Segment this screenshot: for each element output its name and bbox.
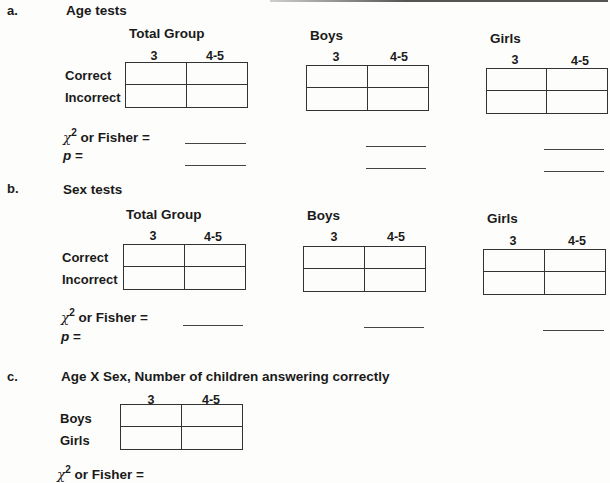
section-c-letter: c. — [7, 369, 18, 384]
b-girls-cell[interactable] — [484, 250, 545, 272]
b-boys-cell[interactable] — [365, 247, 426, 269]
b-boys-title: Boys — [307, 208, 340, 223]
a-chi-fisher-label: χ2 or Fisher = — [63, 127, 150, 145]
a-total-table — [125, 62, 248, 108]
top-rule — [270, 0, 608, 2]
a-girls-p-blank[interactable] — [544, 171, 604, 172]
a-boys-table — [306, 65, 429, 111]
b-total-cell[interactable] — [124, 267, 185, 289]
a-boys-cell[interactable] — [368, 88, 429, 110]
b-total-col-4-5: 4-5 — [198, 230, 228, 244]
a-girls-col-4-5: 4-5 — [565, 54, 595, 68]
b-p-label: p = — [61, 329, 81, 344]
a-total-col-4-5: 4-5 — [200, 49, 230, 63]
b-boys-cell[interactable] — [365, 269, 426, 291]
a-boys-cell[interactable] — [368, 66, 429, 88]
a-total-row-correct: Correct — [65, 68, 111, 83]
b-boys-col-4-5: 4-5 — [381, 230, 411, 244]
c-cell[interactable] — [182, 405, 243, 427]
b-total-cell[interactable] — [124, 245, 185, 267]
a-total-chi-blank[interactable] — [185, 143, 246, 144]
a-boys-cell[interactable] — [307, 66, 368, 88]
b-total-row-correct: Correct — [62, 250, 108, 265]
a-total-cell[interactable] — [126, 85, 187, 107]
c-cell[interactable] — [182, 427, 243, 449]
c-row-girls: Girls — [60, 433, 90, 448]
a-total-cell[interactable] — [126, 63, 187, 85]
b-total-chi-blank[interactable] — [183, 325, 243, 326]
b-girls-cell[interactable] — [484, 272, 545, 294]
a-girls-col-3: 3 — [509, 53, 521, 67]
b-girls-col-4-5: 4-5 — [562, 234, 592, 248]
b-boys-cell[interactable] — [304, 269, 365, 291]
a-total-cell[interactable] — [187, 85, 248, 107]
a-total-cell[interactable] — [187, 63, 248, 85]
a-boys-cell[interactable] — [307, 88, 368, 110]
b-girls-col-3: 3 — [507, 234, 519, 248]
a-girls-chi-blank[interactable] — [544, 149, 604, 150]
c-table — [120, 404, 243, 450]
a-girls-cell[interactable] — [487, 69, 547, 91]
section-b-letter: b. — [7, 181, 19, 196]
a-boys-title: Boys — [310, 28, 343, 43]
a-total-p-blank[interactable] — [185, 165, 246, 166]
c-cell[interactable] — [121, 427, 182, 449]
b-girls-title: Girls — [487, 211, 518, 226]
c-row-boys: Boys — [60, 411, 92, 426]
b-boys-table — [303, 246, 426, 292]
b-boys-col-3: 3 — [328, 230, 340, 244]
b-total-table — [123, 244, 246, 290]
b-chi-fisher-label: χ2 or Fisher = — [61, 307, 148, 325]
b-total-group-title: Total Group — [126, 207, 202, 222]
a-p-label: p = — [63, 148, 83, 163]
section-a-title: Age tests — [66, 3, 127, 18]
a-total-row-incorrect: Incorrect — [65, 90, 121, 105]
section-c-title: Age X Sex, Number of children answering … — [61, 369, 390, 384]
a-total-col-3: 3 — [148, 49, 160, 63]
a-boys-p-blank[interactable] — [366, 168, 426, 169]
b-girls-chi-blank[interactable] — [543, 330, 604, 331]
b-girls-table — [483, 249, 606, 295]
b-total-col-3: 3 — [147, 229, 159, 243]
b-total-row-incorrect: Incorrect — [62, 272, 118, 287]
b-girls-cell[interactable] — [545, 272, 606, 294]
b-girls-cell[interactable] — [545, 250, 606, 272]
a-boys-col-4-5: 4-5 — [384, 50, 414, 64]
c-chi-fisher-label: χ2 or Fisher = — [57, 464, 144, 482]
section-a-letter: a. — [7, 3, 18, 18]
a-girls-cell[interactable] — [547, 91, 607, 113]
a-total-group-title: Total Group — [129, 26, 205, 41]
b-total-cell[interactable] — [185, 245, 246, 267]
a-boys-col-3: 3 — [330, 50, 342, 64]
a-girls-cell[interactable] — [547, 69, 607, 91]
a-boys-chi-blank[interactable] — [366, 146, 426, 147]
a-girls-title: Girls — [490, 31, 521, 46]
b-boys-cell[interactable] — [304, 247, 365, 269]
a-girls-table — [486, 68, 608, 114]
b-boys-chi-blank[interactable] — [364, 327, 424, 328]
c-cell[interactable] — [121, 405, 182, 427]
a-girls-cell[interactable] — [487, 91, 547, 113]
section-b-title: Sex tests — [63, 182, 122, 197]
b-total-cell[interactable] — [185, 267, 246, 289]
